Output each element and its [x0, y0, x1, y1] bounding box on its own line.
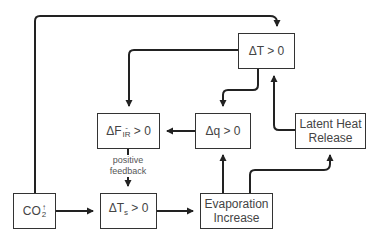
node-delta-f-ir: ΔF-IR > 0	[97, 113, 160, 149]
node-evap-line2: Increase	[213, 211, 259, 225]
node-delta-ts-label: ΔTs > 0	[109, 201, 149, 220]
node-evaporation-increase: Evaporation Increase	[200, 193, 273, 229]
node-latent-heat-line1: Latent Heat	[299, 117, 361, 131]
feedback-line2: feedback	[98, 166, 158, 177]
edge-delta-t-to-delta-q	[223, 69, 258, 106]
feedback-line1: positive	[98, 155, 158, 166]
edge-latent-to-delta-t	[274, 76, 295, 130]
node-delta-t-label: ΔT > 0	[249, 44, 285, 58]
node-delta-q: Δq > 0	[195, 113, 251, 149]
node-latent-heat-release: Latent Heat Release	[295, 113, 366, 149]
node-delta-f-ir-label: ΔF-IR > 0	[106, 124, 151, 139]
node-latent-heat-line2: Release	[308, 131, 352, 145]
node-co2: CO↑2	[13, 193, 56, 229]
positive-feedback-label: positive feedback	[98, 155, 158, 177]
node-delta-ts: ΔTs > 0	[100, 193, 157, 229]
edge-evap-to-latent	[250, 155, 330, 193]
node-evap-line1: Evaporation	[204, 197, 268, 211]
node-co2-label: CO↑2	[23, 204, 46, 219]
edge-delta-t-to-delta-f	[129, 50, 238, 106]
node-delta-t: ΔT > 0	[238, 33, 295, 69]
node-delta-q-label: Δq > 0	[205, 124, 240, 138]
